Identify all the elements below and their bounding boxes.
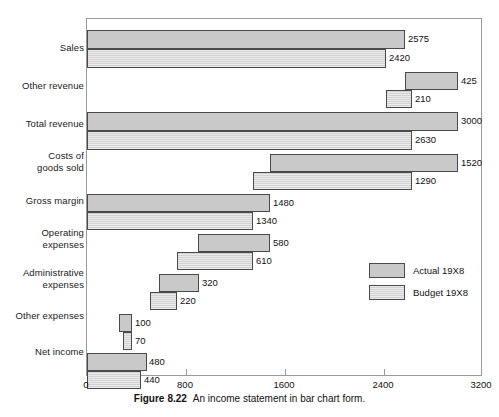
cat-label-admin-line2: expenses [43, 279, 84, 290]
x-tick-800 [186, 369, 187, 375]
legend-item-budget[interactable]: Budget 19X8 [369, 285, 468, 300]
bar-costs-of-goods-sold-actual[interactable] [270, 154, 458, 172]
bar-total-revenue-actual[interactable] [87, 112, 458, 131]
cat-label-cogs-line2: goods sold [37, 162, 84, 173]
cat-label-other-expenses: Other expenses [2, 310, 84, 322]
bar-value-other-revenue-budget: 210 [415, 94, 431, 104]
bar-other-revenue-actual[interactable] [405, 72, 458, 90]
caption-number: 8.22 [167, 393, 186, 404]
cat-label-administrative-expenses: Administrative expenses [2, 267, 84, 290]
caption-text: An income statement in bar chart form. [193, 393, 365, 404]
bar-costs-of-goods-sold-budget[interactable] [253, 172, 412, 190]
cat-label-net-income: Net income [2, 346, 84, 358]
cat-label-operating-expenses: Operating expenses [2, 227, 84, 250]
bar-operating-expenses-actual[interactable] [198, 234, 270, 252]
bar-net-income-budget[interactable] [87, 371, 141, 389]
bar-other-expenses-actual[interactable] [119, 314, 132, 332]
bar-value-total-revenue-actual: 3000 [461, 116, 482, 126]
legend-label-budget: Budget 19X8 [413, 287, 468, 298]
bar-value-net-income-budget: 440 [144, 375, 160, 385]
bar-value-operating-expenses-actual: 580 [273, 238, 289, 248]
bar-value-gross-margin-budget: 1340 [256, 216, 277, 226]
figure-container: Sales Other revenue Total revenue Costs … [0, 0, 499, 417]
legend-swatch-budget-icon [369, 285, 405, 300]
cat-label-opex-line1: Operating [41, 227, 84, 238]
plot-area: 2575 2420 425 210 3000 2630 1520 1290 14… [86, 18, 482, 376]
bar-value-administrative-expenses-actual: 320 [202, 278, 218, 288]
cat-label-admin-line1: Administrative [23, 267, 84, 278]
bar-value-other-expenses-actual: 100 [135, 318, 151, 328]
bar-administrative-expenses-budget[interactable] [150, 292, 177, 310]
x-tick-2400 [384, 369, 385, 375]
legend-label-actual: Actual 19X8 [413, 265, 464, 276]
bar-other-expenses-budget[interactable] [123, 332, 132, 350]
bar-operating-expenses-budget[interactable] [177, 252, 253, 270]
bar-other-revenue-budget[interactable] [386, 90, 412, 108]
legend-swatch-actual-icon [369, 263, 405, 278]
bar-value-net-income-actual: 480 [149, 357, 165, 367]
y-axis-category-labels: Sales Other revenue Total revenue Costs … [0, 18, 84, 376]
bar-value-gross-margin-actual: 1480 [273, 198, 294, 208]
cat-label-other-revenue: Other revenue [2, 80, 84, 92]
legend-item-actual[interactable]: Actual 19X8 [369, 263, 468, 278]
bar-value-administrative-expenses-budget: 220 [180, 296, 196, 306]
bar-value-other-expenses-budget: 70 [135, 336, 146, 346]
bar-net-income-actual[interactable] [87, 353, 147, 371]
x-tick-label-800: 800 [177, 380, 193, 390]
cat-label-cogs-line1: Costs of [48, 150, 84, 161]
bar-administrative-expenses-actual[interactable] [159, 274, 199, 292]
cat-label-total-revenue: Total revenue [2, 118, 84, 130]
bar-value-sales-actual: 2575 [408, 34, 429, 44]
x-tick-label-3200: 3200 [470, 380, 491, 390]
caption-label: Figure [134, 393, 165, 404]
bar-value-cogs-budget: 1290 [415, 176, 436, 186]
cat-label-opex-line2: expenses [43, 239, 84, 250]
bar-gross-margin-actual[interactable] [87, 194, 270, 212]
cat-label-gross-margin: Gross margin [2, 195, 84, 207]
bar-value-cogs-actual: 1520 [461, 158, 482, 168]
bar-gross-margin-budget[interactable] [87, 212, 253, 230]
x-tick-label-1600: 1600 [273, 380, 294, 390]
bar-sales-actual[interactable] [87, 30, 405, 49]
x-tick-label-2400: 2400 [372, 380, 393, 390]
bar-value-sales-budget: 2420 [389, 53, 410, 63]
cat-label-costs-of-goods-sold: Costs of goods sold [2, 150, 84, 173]
x-tick-label-0: 0 [83, 380, 88, 390]
cat-label-sales: Sales [2, 42, 84, 54]
bar-value-total-revenue-budget: 2630 [415, 135, 436, 145]
bar-value-operating-expenses-budget: 610 [256, 256, 272, 266]
bar-sales-budget[interactable] [87, 49, 386, 68]
figure-caption: Figure8.22An income statement in bar cha… [0, 392, 499, 405]
bar-total-revenue-budget[interactable] [87, 131, 412, 150]
bar-value-other-revenue-actual: 425 [461, 76, 477, 86]
x-tick-1600 [285, 369, 286, 375]
legend: Actual 19X8 Budget 19X8 [369, 263, 468, 307]
